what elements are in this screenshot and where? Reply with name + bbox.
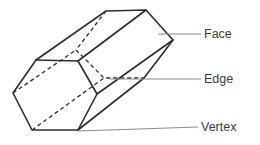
top-right-connecting-edge <box>78 10 146 61</box>
vertex-leader-line <box>78 127 198 131</box>
edge-label: Edge <box>204 72 233 86</box>
face-label: Face <box>204 27 232 41</box>
front-hexagon-inner-edges <box>36 60 97 130</box>
vertex-label: Vertex <box>201 120 237 134</box>
hidden-left-connecting-edge <box>13 50 76 93</box>
hexagonal-prism-diagram: Face Edge Vertex <box>0 0 260 145</box>
prism-figure: Face Edge Vertex <box>0 0 260 145</box>
